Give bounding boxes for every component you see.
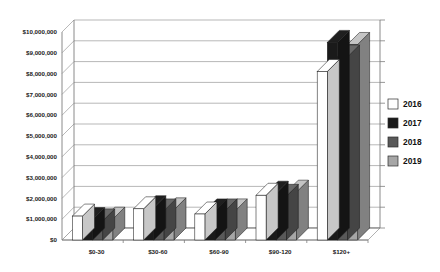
legend-swatch-2018 [388, 137, 398, 147]
gridline-depth-connector [62, 82, 74, 94]
y-axis-tick-label: $4,000,000 [26, 153, 58, 160]
bar-front-face [256, 195, 266, 240]
y-axis-tick-label: $0 [50, 236, 57, 243]
gridline-depth-connector [62, 186, 74, 198]
bar [256, 183, 278, 240]
chart-canvas: $0$1,000,000$2,000,000$3,000,000$4,000,0… [0, 0, 440, 272]
legend-swatch-2019 [388, 156, 398, 166]
bar-front-face [317, 72, 327, 240]
x-axis-labels: $0-30$30-60$60-90$90-120$120+ [89, 240, 368, 255]
gridline-depth-connector [62, 20, 74, 32]
bar-front-face [134, 209, 144, 240]
x-axis-tick-label: $60-90 [209, 248, 229, 255]
bar-front-face [195, 214, 205, 240]
gridline-depth-connector [62, 62, 74, 74]
y-axis-tick-label: $6,000,000 [26, 111, 58, 118]
y-axis-tick-label: $9,000,000 [26, 49, 58, 56]
gridline-depth-connector [62, 145, 74, 157]
gridline-depth-connector [62, 103, 74, 115]
x-axis-tick-label: $120+ [333, 248, 351, 255]
y-axis-labels: $0$1,000,000$2,000,000$3,000,000$4,000,0… [23, 28, 58, 243]
gridline-depth-connector [62, 41, 74, 53]
y-axis-tick-label: $2,000,000 [26, 195, 58, 202]
gridline-depth-connector [62, 166, 74, 178]
x-axis-tick-label: $0-30 [89, 248, 105, 255]
legend-swatch-2016 [388, 99, 398, 109]
bar-chart: $0$1,000,000$2,000,000$3,000,000$4,000,0… [0, 0, 440, 272]
y-axis-tick-label: $10,000,000 [23, 28, 58, 35]
legend-swatch-2017 [388, 118, 398, 128]
legend: 2016201720182019 [388, 99, 422, 166]
legend-label-2018: 2018 [403, 137, 422, 147]
x-axis-tick-label: $30-60 [148, 248, 168, 255]
y-axis-tick-label: $7,000,000 [26, 91, 58, 98]
legend-label-2016: 2016 [403, 99, 422, 109]
bar-side-face [327, 60, 339, 240]
legend-label-2019: 2019 [403, 156, 422, 166]
gridline-depth-connector [62, 124, 74, 136]
bar [317, 60, 339, 240]
y-axis-tick-label: $3,000,000 [26, 174, 58, 181]
x-axis-tick-label: $90-120 [269, 248, 292, 255]
bar-front-face [72, 216, 82, 240]
y-axis-tick-label: $8,000,000 [26, 70, 58, 77]
y-axis-tick-label: $1,000,000 [26, 215, 58, 222]
legend-label-2017: 2017 [403, 118, 422, 128]
y-axis-tick-label: $5,000,000 [26, 132, 58, 139]
